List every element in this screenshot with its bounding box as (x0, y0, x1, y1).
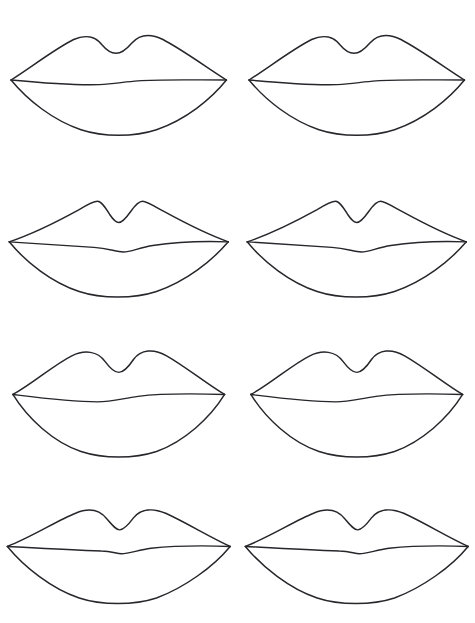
lower-lip-outline (245, 546, 468, 603)
lip-drawing-5 (0, 320, 238, 480)
lip-drawing-1 (0, 0, 238, 160)
upper-lip-outline (7, 510, 230, 547)
upper-lip-outline (249, 36, 464, 80)
lower-lip-outline (7, 546, 230, 603)
upper-lip-outline (245, 510, 468, 547)
lip-drawing-4 (238, 160, 475, 320)
mouth-line (249, 80, 464, 85)
lip-svg-3 (0, 160, 238, 320)
lip-svg-7 (0, 480, 238, 623)
mouth-line (11, 80, 226, 85)
upper-lip-outline (11, 36, 226, 80)
lower-lip-outline (249, 80, 464, 135)
lips-drawing-sheet (0, 0, 475, 623)
lips-grid (0, 0, 475, 623)
lip-svg-5 (0, 320, 238, 480)
mouth-line (245, 546, 468, 554)
lip-drawing-2 (238, 0, 475, 160)
upper-lip-outline (250, 351, 462, 394)
mouth-line (9, 242, 228, 252)
mouth-line (247, 242, 466, 252)
upper-lip-outline (9, 201, 228, 242)
lip-svg-1 (0, 0, 238, 160)
lip-drawing-3 (0, 160, 238, 320)
lip-svg-2 (238, 0, 475, 160)
lower-lip-outline (9, 242, 228, 297)
lower-lip-outline (11, 80, 226, 135)
lip-drawing-6 (238, 320, 475, 480)
mouth-line (250, 394, 462, 402)
lip-svg-8 (238, 480, 475, 623)
lower-lip-outline (13, 394, 225, 457)
upper-lip-outline (247, 201, 466, 242)
lower-lip-outline (247, 242, 466, 297)
lip-svg-6 (238, 320, 475, 480)
mouth-line (13, 394, 225, 402)
lip-svg-4 (238, 160, 475, 320)
lip-drawing-7 (0, 480, 238, 623)
upper-lip-outline (13, 351, 225, 394)
mouth-line (7, 546, 230, 554)
lip-drawing-8 (238, 480, 475, 623)
lower-lip-outline (250, 394, 462, 457)
